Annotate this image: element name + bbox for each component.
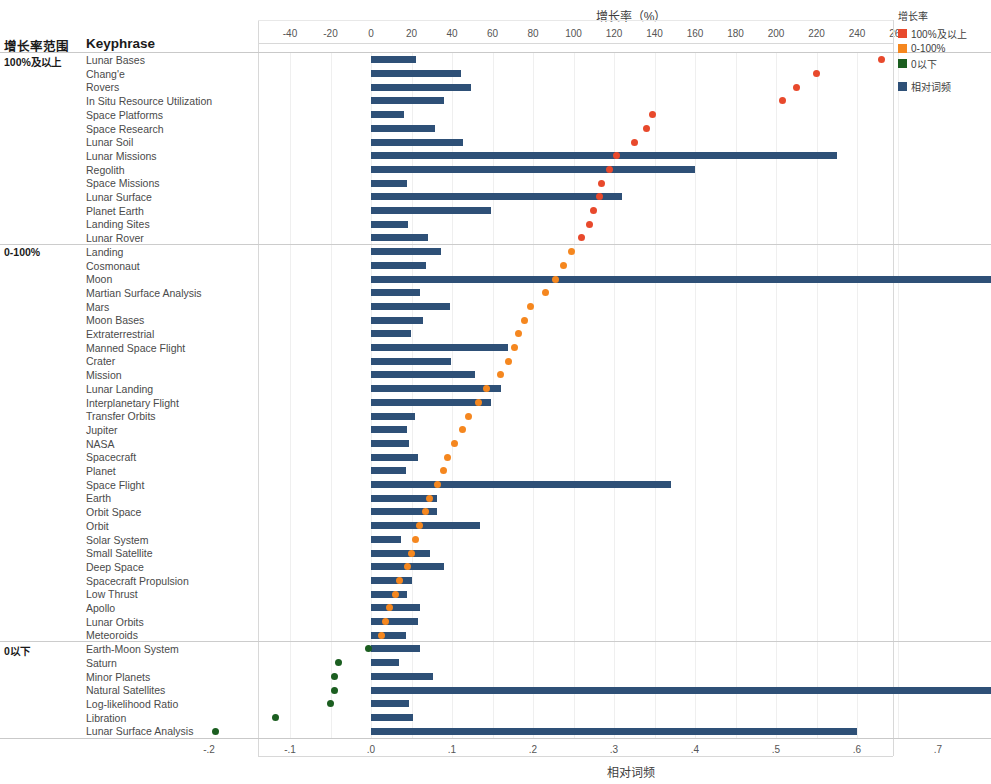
frequency-bar[interactable] xyxy=(371,248,441,255)
growth-rate-dot[interactable] xyxy=(779,97,786,104)
table-row[interactable]: Lunar Surface xyxy=(0,190,991,204)
frequency-bar[interactable] xyxy=(371,413,415,420)
frequency-bar[interactable] xyxy=(371,604,420,611)
growth-rate-dot[interactable] xyxy=(335,659,342,666)
table-row[interactable]: NASA xyxy=(0,437,991,451)
frequency-bar[interactable] xyxy=(371,56,416,63)
frequency-bar[interactable] xyxy=(371,728,857,735)
table-row[interactable]: Jupiter xyxy=(0,423,991,437)
table-row[interactable]: 0以下Earth-Moon System xyxy=(0,642,991,656)
table-row[interactable]: Crater xyxy=(0,354,991,368)
growth-rate-dot[interactable] xyxy=(643,125,650,132)
frequency-bar[interactable] xyxy=(371,673,433,680)
frequency-bar[interactable] xyxy=(371,152,837,159)
frequency-bar[interactable] xyxy=(371,385,501,392)
table-row[interactable]: Mission xyxy=(0,368,991,382)
table-row[interactable]: Small Satellite xyxy=(0,546,991,560)
table-row[interactable]: Cosmonaut xyxy=(0,259,991,273)
frequency-bar[interactable] xyxy=(371,111,404,118)
table-row[interactable]: Lunar Surface Analysis xyxy=(0,724,991,738)
frequency-bar[interactable] xyxy=(371,700,409,707)
frequency-bar[interactable] xyxy=(371,536,401,543)
frequency-bar[interactable] xyxy=(371,125,435,132)
legend-item[interactable]: 0以下 xyxy=(898,56,988,71)
growth-rate-dot[interactable] xyxy=(793,84,800,91)
table-row[interactable]: Mars xyxy=(0,300,991,314)
growth-rate-dot[interactable] xyxy=(459,426,466,433)
table-row[interactable]: Space Flight xyxy=(0,478,991,492)
frequency-bar[interactable] xyxy=(371,550,430,557)
table-row[interactable]: Space Platforms xyxy=(0,108,991,122)
table-row[interactable]: Log-likelihood Ratio xyxy=(0,697,991,711)
frequency-bar[interactable] xyxy=(371,303,450,310)
growth-rate-dot[interactable] xyxy=(444,454,451,461)
table-row[interactable]: Lunar Landing xyxy=(0,382,991,396)
frequency-bar[interactable] xyxy=(371,70,461,77)
growth-rate-dot[interactable] xyxy=(392,591,399,598)
table-row[interactable]: Lunar Soil xyxy=(0,135,991,149)
legend-item[interactable]: 0-100% xyxy=(898,43,988,54)
table-row[interactable]: Spacecraft Propulsion xyxy=(0,574,991,588)
table-row[interactable]: Low Thrust xyxy=(0,587,991,601)
frequency-bar[interactable] xyxy=(371,330,411,337)
growth-rate-dot[interactable] xyxy=(396,577,403,584)
frequency-bar[interactable] xyxy=(371,234,428,241)
growth-rate-dot[interactable] xyxy=(598,180,605,187)
growth-rate-dot[interactable] xyxy=(331,673,338,680)
frequency-bar[interactable] xyxy=(371,358,451,365)
frequency-bar[interactable] xyxy=(371,481,671,488)
growth-rate-dot[interactable] xyxy=(451,440,458,447)
growth-rate-dot[interactable] xyxy=(327,700,334,707)
frequency-bar[interactable] xyxy=(371,276,991,283)
growth-rate-dot[interactable] xyxy=(511,344,518,351)
growth-rate-dot[interactable] xyxy=(378,632,385,639)
frequency-bar[interactable] xyxy=(371,344,508,351)
table-row[interactable]: Space Research xyxy=(0,122,991,136)
frequency-bar[interactable] xyxy=(371,207,491,214)
frequency-bar[interactable] xyxy=(371,659,399,666)
table-row[interactable]: In Situ Resource Utilization xyxy=(0,94,991,108)
growth-rate-dot[interactable] xyxy=(465,413,472,420)
table-row[interactable]: Deep Space xyxy=(0,560,991,574)
table-row[interactable]: Chang'e xyxy=(0,67,991,81)
table-row[interactable]: Moon xyxy=(0,272,991,286)
legend-item-bar[interactable]: 相对词频 xyxy=(898,79,988,94)
table-row[interactable]: Orbit xyxy=(0,519,991,533)
growth-rate-dot[interactable] xyxy=(649,111,656,118)
growth-rate-dot[interactable] xyxy=(586,221,593,228)
frequency-bar[interactable] xyxy=(371,440,409,447)
growth-rate-dot[interactable] xyxy=(613,152,620,159)
growth-rate-dot[interactable] xyxy=(412,536,419,543)
growth-rate-dot[interactable] xyxy=(813,70,820,77)
growth-rate-dot[interactable] xyxy=(631,139,638,146)
frequency-bar[interactable] xyxy=(371,632,406,639)
table-row[interactable]: Spacecraft xyxy=(0,450,991,464)
growth-rate-dot[interactable] xyxy=(505,358,512,365)
table-row[interactable]: Regolith xyxy=(0,163,991,177)
table-row[interactable]: Meteoroids xyxy=(0,628,991,642)
growth-rate-dot[interactable] xyxy=(590,207,597,214)
frequency-bar[interactable] xyxy=(371,139,463,146)
growth-rate-dot[interactable] xyxy=(440,467,447,474)
growth-rate-dot[interactable] xyxy=(578,234,585,241)
table-row[interactable]: Planet xyxy=(0,464,991,478)
table-row[interactable]: Lunar Orbits xyxy=(0,615,991,629)
table-row[interactable]: Orbit Space xyxy=(0,505,991,519)
frequency-bar[interactable] xyxy=(371,687,991,694)
table-row[interactable]: Martian Surface Analysis xyxy=(0,286,991,300)
frequency-bar[interactable] xyxy=(371,84,471,91)
frequency-bar[interactable] xyxy=(371,454,418,461)
frequency-bar[interactable] xyxy=(371,618,418,625)
frequency-bar[interactable] xyxy=(371,645,420,652)
frequency-bar[interactable] xyxy=(371,289,420,296)
frequency-bar[interactable] xyxy=(371,714,413,721)
table-row[interactable]: Apollo xyxy=(0,601,991,615)
table-row[interactable]: Earth xyxy=(0,491,991,505)
table-row[interactable]: Planet Earth xyxy=(0,204,991,218)
table-row[interactable]: Interplanetary Flight xyxy=(0,396,991,410)
table-row[interactable]: Manned Space Flight xyxy=(0,341,991,355)
table-row[interactable]: Lunar Missions xyxy=(0,149,991,163)
frequency-bar[interactable] xyxy=(371,166,695,173)
table-row[interactable]: Saturn xyxy=(0,656,991,670)
growth-rate-dot[interactable] xyxy=(212,728,219,735)
